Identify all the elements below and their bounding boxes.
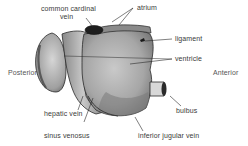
heart-illustration <box>0 0 248 146</box>
label-hepatic-vein: hepatic vein <box>44 110 83 118</box>
heart-diagram: common cardinal vein atrium ligament ven… <box>0 0 248 146</box>
leader-atrium-1 <box>112 8 133 22</box>
label-ligament: ligament <box>175 35 202 43</box>
label-anterior: Anterior <box>213 69 238 77</box>
posterior-lobe <box>36 33 66 92</box>
label-atrium: atrium <box>137 4 157 12</box>
label-common-cardinal-vein-2: vein <box>60 13 73 21</box>
label-sinus-venosus: sinus venosus <box>44 132 90 140</box>
label-bulbus: bulbus <box>176 107 197 115</box>
label-posterior: Posterior <box>8 69 37 77</box>
label-inferior-jugular-vein: inferior jugular vein <box>138 132 199 140</box>
common-cardinal-vein-opening <box>85 26 103 35</box>
leader-common-cardinal-vein <box>86 18 93 27</box>
label-ventricle: ventricle <box>175 55 202 63</box>
label-common-cardinal-vein-1: common cardinal <box>41 5 96 13</box>
leader-inferior-jugular-vein <box>135 117 143 131</box>
leader-bulbus <box>170 96 181 106</box>
leader-atrium-2 <box>119 8 133 25</box>
